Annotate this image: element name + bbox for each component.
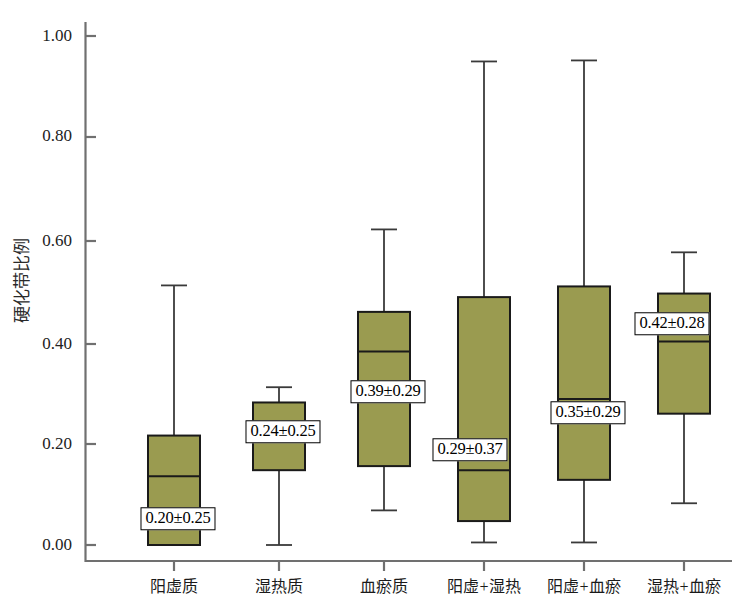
x-category-label-6: 湿热+血瘀 [647, 573, 720, 597]
x-category-label-5: 阳虚+血瘀 [547, 573, 620, 597]
x-axis-ticks [174, 561, 684, 571]
box-glyph [358, 229, 410, 510]
stat-annotation-4: 0.29±0.37 [432, 438, 507, 461]
plot-area [0, 0, 732, 601]
boxplot-chart: 硬化带比例 1.00 0.80 0.60 0.40 0.20 0.00 [0, 0, 732, 601]
x-category-label-1: 阳虚质 [150, 573, 198, 597]
box-glyph-layer [148, 60, 710, 545]
y-axis-ticks [85, 36, 96, 545]
box-body [458, 297, 510, 521]
stat-annotation-3: 0.39±0.29 [350, 380, 425, 403]
x-category-label-2: 湿热质 [255, 573, 303, 597]
box-glyph [253, 387, 305, 545]
box-glyph [558, 60, 610, 542]
stat-annotation-5: 0.35±0.29 [550, 401, 625, 424]
box-glyph [658, 252, 710, 503]
box-glyph [148, 285, 200, 545]
stat-annotation-1: 0.20±0.25 [140, 507, 215, 530]
box-body [558, 286, 610, 479]
box-glyph [458, 61, 510, 542]
x-category-label-3: 血瘀质 [360, 573, 408, 597]
stat-annotation-2: 0.24±0.25 [245, 420, 320, 443]
stat-annotation-6: 0.42±0.28 [634, 312, 709, 335]
x-category-label-4: 阳虚+湿热 [447, 573, 520, 597]
